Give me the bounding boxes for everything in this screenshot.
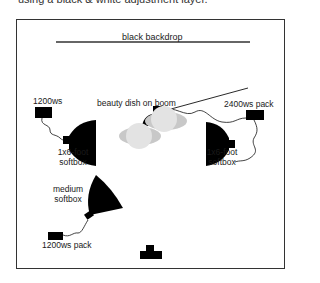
cable-left-pack-softbox (42, 118, 65, 140)
power-pack-left-icon (35, 107, 52, 118)
softbox-left-label: 1x6-foot softbox (53, 147, 93, 167)
pack-bottom-label: 1200ws pack (42, 240, 92, 250)
softbox-right-label-line2: softbox (202, 157, 242, 167)
softbox-medium-label-line2: softbox (50, 194, 86, 204)
power-pack-bottom-icon (48, 232, 63, 240)
softbox-left-label-line1: 1x6-foot (53, 147, 93, 157)
backdrop-label: black backdrop (122, 32, 183, 42)
softbox-medium-icon (84, 175, 123, 220)
camera-icon (140, 245, 162, 259)
softbox-right-label-line1: 1x6-foot (202, 147, 242, 157)
softbox-medium-label-line1: medium (50, 184, 86, 194)
beauty-dish-label: beauty dish on boom (97, 98, 176, 108)
subject-figures-icon (119, 106, 187, 149)
power-pack-right-icon (246, 110, 264, 120)
softbox-medium-label: medium softbox (50, 184, 86, 204)
softbox-left-label-line2: softbox (53, 157, 93, 167)
pack-left-label: 1200ws (33, 96, 62, 106)
pack-right-label: 2400ws pack (224, 99, 274, 109)
cable-bottom-pack-softbox (63, 220, 88, 236)
softbox-right-label: 1x6-foot softbox (202, 147, 242, 167)
